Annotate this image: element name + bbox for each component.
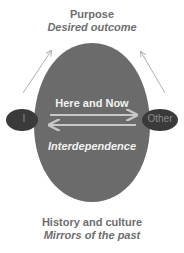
here-and-now-label: Here and Now (0, 97, 184, 109)
interdependence-label: Interdependence (0, 140, 184, 152)
node-other-label: Other (140, 113, 180, 124)
history-label: History and culture Mirrors of the past (0, 216, 184, 242)
history-subtitle: Mirrors of the past (0, 229, 184, 242)
right-diagonal-arrow (141, 52, 165, 93)
main-oval (34, 43, 150, 202)
history-title: History and culture (42, 216, 142, 228)
node-i-label: I (8, 113, 40, 124)
